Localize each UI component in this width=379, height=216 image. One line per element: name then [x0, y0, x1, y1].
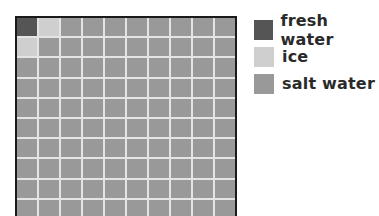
waffle-cell-salt-water — [171, 38, 191, 56]
waffle-cell-salt-water — [61, 58, 81, 76]
waffle-cell-salt-water — [127, 58, 147, 76]
waffle-cell-salt-water — [127, 180, 147, 198]
waffle-cell-salt-water — [171, 139, 191, 157]
waffle-cell-salt-water — [171, 58, 191, 76]
waffle-cell-salt-water — [17, 139, 37, 157]
waffle-cell-salt-water — [83, 119, 103, 137]
waffle-cell-salt-water — [105, 18, 125, 36]
waffle-cell-salt-water — [149, 79, 169, 97]
waffle-cell-salt-water — [193, 119, 213, 137]
waffle-cell-salt-water — [215, 38, 235, 56]
waffle-cell-salt-water — [105, 200, 125, 216]
waffle-cell-salt-water — [127, 200, 147, 216]
waffle-cell-salt-water — [39, 139, 59, 157]
waffle-cell-salt-water — [105, 180, 125, 198]
waffle-cell-salt-water — [105, 79, 125, 97]
waffle-cell-salt-water — [17, 180, 37, 198]
waffle-cell-salt-water — [215, 139, 235, 157]
waffle-cell-salt-water — [83, 200, 103, 216]
waffle-cell-salt-water — [149, 139, 169, 157]
waffle-cell-salt-water — [171, 79, 191, 97]
waffle-cell-salt-water — [149, 200, 169, 216]
waffle-cell-salt-water — [83, 38, 103, 56]
waffle-cell-ice — [39, 18, 59, 36]
waffle-cell-salt-water — [215, 79, 235, 97]
waffle-cell-salt-water — [61, 38, 81, 56]
waffle-cell-salt-water — [149, 159, 169, 177]
waffle-cell-salt-water — [215, 200, 235, 216]
waffle-cell-salt-water — [17, 200, 37, 216]
waffle-cell-salt-water — [105, 159, 125, 177]
waffle-cell-salt-water — [105, 58, 125, 76]
waffle-cell-salt-water — [215, 119, 235, 137]
waffle-cell-salt-water — [127, 119, 147, 137]
waffle-cell-salt-water — [193, 139, 213, 157]
waffle-cell-salt-water — [17, 99, 37, 117]
waffle-cell-salt-water — [127, 38, 147, 56]
waffle-cell-salt-water — [171, 159, 191, 177]
waffle-cell-salt-water — [39, 159, 59, 177]
waffle-cell-salt-water — [61, 79, 81, 97]
waffle-cell-salt-water — [61, 200, 81, 216]
waffle-cell-salt-water — [61, 119, 81, 137]
waffle-cell-salt-water — [61, 180, 81, 198]
waffle-cell-salt-water — [215, 180, 235, 198]
waffle-cell-salt-water — [83, 99, 103, 117]
legend-label: ice — [282, 47, 308, 66]
waffle-cell-salt-water — [215, 58, 235, 76]
waffle-cell-salt-water — [215, 159, 235, 177]
waffle-cell-salt-water — [193, 180, 213, 198]
waffle-cell-salt-water — [149, 119, 169, 137]
waffle-chart — [15, 16, 237, 216]
waffle-cell-salt-water — [149, 99, 169, 117]
waffle-cell-salt-water — [171, 99, 191, 117]
waffle-cell-fresh-water — [17, 18, 37, 36]
waffle-cell-ice — [17, 38, 37, 56]
waffle-cell-salt-water — [83, 18, 103, 36]
waffle-cell-salt-water — [215, 18, 235, 36]
legend-item-salt-water: salt water — [254, 70, 379, 97]
waffle-cell-salt-water — [149, 38, 169, 56]
waffle-cell-salt-water — [83, 79, 103, 97]
waffle-cell-salt-water — [193, 159, 213, 177]
waffle-cell-salt-water — [127, 139, 147, 157]
waffle-cell-salt-water — [83, 180, 103, 198]
waffle-cell-salt-water — [105, 38, 125, 56]
legend-swatch-salt-water — [254, 74, 274, 94]
legend-swatch-fresh-water — [254, 20, 273, 40]
waffle-cell-salt-water — [149, 18, 169, 36]
waffle-cell-salt-water — [193, 38, 213, 56]
waffle-cell-salt-water — [171, 119, 191, 137]
waffle-cell-salt-water — [171, 18, 191, 36]
waffle-cell-salt-water — [193, 99, 213, 117]
waffle-grid — [17, 18, 235, 216]
waffle-cell-salt-water — [105, 119, 125, 137]
waffle-cell-salt-water — [105, 99, 125, 117]
waffle-cell-salt-water — [193, 79, 213, 97]
waffle-cell-salt-water — [171, 180, 191, 198]
legend-swatch-ice — [254, 47, 274, 67]
waffle-cell-salt-water — [61, 99, 81, 117]
waffle-cell-salt-water — [149, 180, 169, 198]
legend-item-fresh-water: fresh water — [254, 16, 379, 43]
waffle-cell-salt-water — [61, 139, 81, 157]
waffle-cell-salt-water — [149, 58, 169, 76]
waffle-cell-salt-water — [83, 159, 103, 177]
waffle-cell-salt-water — [127, 99, 147, 117]
waffle-cell-salt-water — [17, 79, 37, 97]
waffle-cell-salt-water — [61, 159, 81, 177]
legend: fresh water ice salt water — [254, 16, 379, 97]
legend-label: fresh water — [281, 11, 379, 49]
waffle-cell-salt-water — [193, 58, 213, 76]
waffle-cell-salt-water — [39, 200, 59, 216]
waffle-cell-salt-water — [39, 119, 59, 137]
legend-label: salt water — [282, 74, 375, 93]
waffle-cell-salt-water — [83, 58, 103, 76]
waffle-cell-salt-water — [83, 139, 103, 157]
waffle-cell-salt-water — [17, 58, 37, 76]
waffle-cell-salt-water — [193, 18, 213, 36]
waffle-cell-salt-water — [39, 99, 59, 117]
waffle-cell-salt-water — [17, 159, 37, 177]
waffle-cell-salt-water — [127, 159, 147, 177]
waffle-cell-salt-water — [171, 200, 191, 216]
